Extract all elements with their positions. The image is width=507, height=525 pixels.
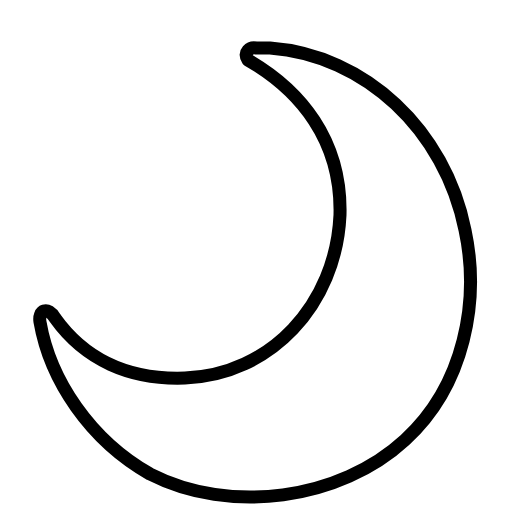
- moon-outline-canvas: [0, 0, 507, 525]
- crescent-moon-shape: [40, 48, 471, 497]
- moon-icon: [0, 0, 507, 525]
